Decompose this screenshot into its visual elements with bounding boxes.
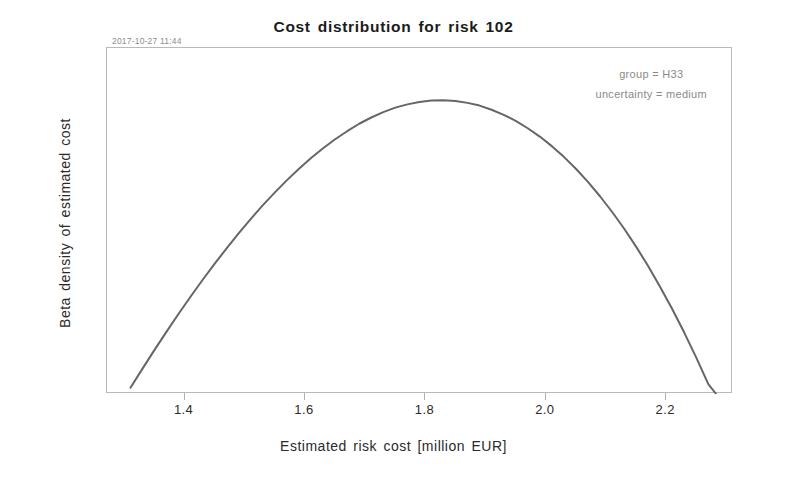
x-axis: 1.41.61.82.02.2	[106, 393, 732, 423]
x-axis-tick	[184, 393, 185, 400]
x-axis-tick-label: 1.4	[174, 402, 193, 417]
x-axis-tick	[424, 393, 425, 400]
timestamp-label: 2017-10-27 11:44	[112, 36, 182, 46]
x-axis-tick-label: 2.0	[535, 402, 554, 417]
y-axis-title: Beta density of estimated cost	[57, 63, 73, 383]
plot-area: group = H33 uncertainty = medium	[106, 47, 732, 393]
chart-title: Cost distribution for risk 102	[0, 18, 787, 36]
beta-density-curve	[130, 100, 716, 394]
x-axis-tick-label: 2.2	[656, 402, 675, 417]
annotation-block: group = H33 uncertainty = medium	[596, 64, 707, 104]
annotation-uncertainty: uncertainty = medium	[596, 84, 707, 104]
x-axis-tick	[665, 393, 666, 400]
x-axis-tick	[545, 393, 546, 400]
x-axis-tick	[304, 393, 305, 400]
annotation-group: group = H33	[596, 64, 707, 84]
figure-canvas: Cost distribution for risk 102 2017-10-2…	[0, 0, 787, 488]
x-axis-tick-label: 1.6	[294, 402, 313, 417]
x-axis-tick-label: 1.8	[415, 402, 434, 417]
x-axis-title: Estimated risk cost [million EUR]	[0, 438, 787, 454]
